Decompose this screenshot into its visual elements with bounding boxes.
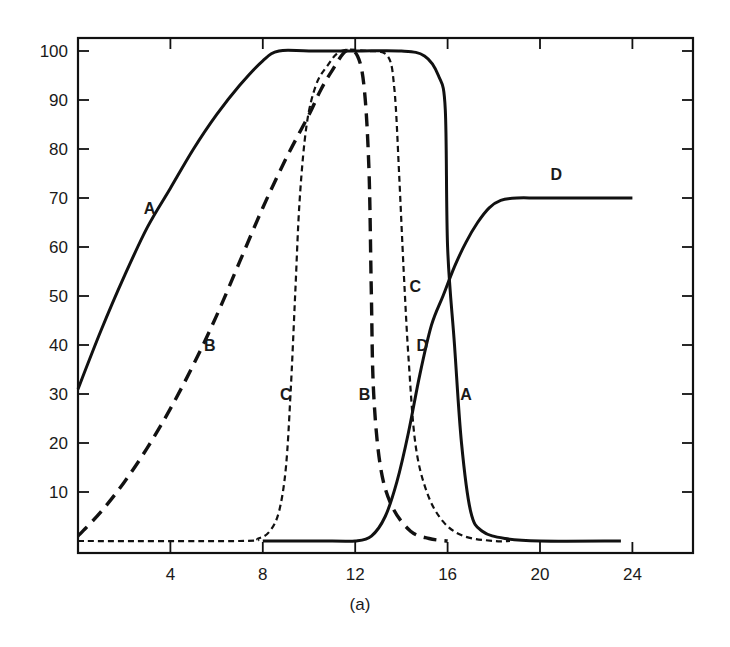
curve-label-d: D: [416, 337, 428, 354]
x-tick-label: 8: [258, 565, 267, 584]
y-tick-label: 80: [49, 140, 68, 159]
y-tick-label: 10: [49, 483, 68, 502]
y-tick-label: 20: [49, 434, 68, 453]
curve-label-a: A: [460, 386, 472, 403]
y-tick-label: 30: [49, 385, 68, 404]
y-tick-label: 60: [49, 238, 68, 257]
curve-label-c: C: [280, 386, 292, 403]
x-tick-label: 4: [166, 565, 175, 584]
x-tick-label: 12: [346, 565, 365, 584]
figure-caption: (a): [350, 595, 371, 614]
chart-figure: 102030405060708090100 4812162024 AABBCCD…: [0, 0, 730, 647]
curve-label-d: D: [550, 166, 562, 183]
y-tick-label: 70: [49, 189, 68, 208]
curve-label-b: B: [359, 386, 371, 403]
curve-a: [78, 50, 621, 541]
plot-frame: [78, 38, 693, 553]
y-tick-label: 50: [49, 287, 68, 306]
y-tick-label: 90: [49, 91, 68, 110]
x-tick-label: 24: [623, 565, 642, 584]
x-tick-label: 16: [438, 565, 457, 584]
y-tick-label: 40: [49, 336, 68, 355]
x-tick-label: 20: [531, 565, 550, 584]
x-axis: 4812162024: [166, 38, 642, 584]
curve-label-a: A: [144, 200, 156, 217]
plot-border: [78, 38, 693, 553]
y-tick-label: 100: [40, 42, 68, 61]
y-axis: 102030405060708090100: [40, 42, 693, 502]
curve-label-c: C: [409, 278, 421, 295]
curves: [78, 50, 632, 542]
curve-label-b: B: [204, 337, 216, 354]
curve-b: [78, 50, 448, 541]
